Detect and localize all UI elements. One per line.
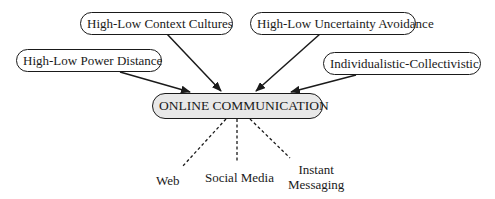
channel-web: Web	[156, 173, 180, 188]
dashed-link-web	[182, 119, 226, 167]
channel-instant-messaging: Instant Messaging	[288, 162, 344, 192]
channel-social-media: Social Media	[205, 170, 274, 185]
arrow-context-cultures	[167, 34, 221, 91]
node-label: Individualistic-Collectivistic	[330, 54, 479, 74]
node-uncertainty-avoidance: High-Low Uncertainty Avoidance	[250, 12, 416, 35]
node-online-communication: ONLINE COMMUNICATION	[152, 93, 323, 119]
node-individualistic-collectivistic: Individualistic-Collectivistic	[323, 52, 481, 75]
arrow-power-distance	[120, 72, 190, 92]
center-label: ONLINE COMMUNICATION	[159, 96, 329, 116]
arrow-individualistic-collectivistic	[291, 75, 356, 92]
arrow-uncertainty-avoidance	[256, 34, 320, 91]
node-label: High-Low Uncertainty Avoidance	[257, 14, 434, 34]
node-power-distance: High-Low Power Distance	[16, 49, 162, 72]
node-context-cultures: High-Low Context Cultures	[80, 12, 233, 35]
node-label: High-Low Context Cultures	[87, 14, 233, 34]
node-label: High-Low Power Distance	[23, 51, 162, 71]
dashed-link-instant-messaging	[250, 119, 290, 158]
